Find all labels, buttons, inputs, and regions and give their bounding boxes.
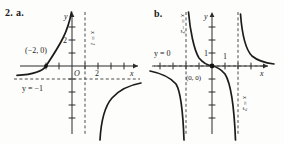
panel-a-x-tick-label-2: 2	[95, 69, 99, 78]
panel-b: b.	[142, 0, 284, 144]
panel-a-plot: x y O 2 2 (−2, 0) y = −1 x = 1	[0, 0, 142, 144]
panel-b-horizontal-asymptote-label: y = 0	[154, 49, 171, 58]
panel-a-y-axis-label: y	[63, 12, 68, 21]
panel-a-y-tick-label-2: 2	[63, 36, 67, 45]
panel-b-plot: x y 1 1 y = 0 (0, 0) x = −2 x = 2	[142, 0, 284, 144]
panel-a-origin-label: O	[74, 69, 80, 78]
figure-container: 2. a.	[0, 0, 284, 144]
panel-b-origin-dot	[210, 64, 215, 69]
panel-a: 2. a.	[0, 0, 142, 144]
panel-b-y-tick-label-1: 1	[204, 49, 208, 58]
panel-a-horizontal-asymptote-label: y = −1	[22, 84, 43, 93]
panel-a-x-axis-label: x	[129, 69, 134, 78]
panel-b-axes	[154, 12, 268, 134]
panel-b-x-tick-label-1: 1	[223, 52, 227, 61]
panel-b-origin-point-label: (0, 0)	[186, 74, 202, 82]
panel-a-curve-right	[100, 83, 141, 140]
panel-a-point-dot	[44, 64, 48, 68]
panel-a-vertical-asymptote-label: x = 1	[89, 30, 97, 46]
panel-b-left-asymptote-label: x = −2	[179, 13, 187, 34]
panel-b-curve-left	[150, 71, 184, 140]
panel-b-curve-right	[241, 14, 275, 64]
panel-b-y-axis-label: y	[203, 12, 208, 21]
panel-b-right-asymptote-label: x = 2	[241, 95, 249, 111]
panel-a-point-label: (−2, 0)	[25, 46, 47, 55]
panel-b-x-axis-label: x	[259, 69, 264, 78]
